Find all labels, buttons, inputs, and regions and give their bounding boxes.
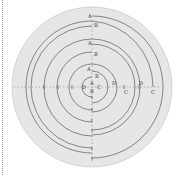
- spiral-diagram: A B D C A B D C A B A D C B: [0, 0, 180, 175]
- label-middle-c: C: [124, 89, 128, 95]
- label-outer-d: D: [139, 80, 143, 86]
- label-outer-a: A: [87, 13, 92, 19]
- label-center-d: D: [82, 84, 86, 90]
- label-outer-b: B: [94, 22, 98, 28]
- label-center-b: B: [90, 88, 94, 94]
- label-middle-b: B: [94, 51, 98, 57]
- label-outer-c: C: [151, 89, 155, 95]
- label-middle-d: D: [112, 80, 116, 86]
- label-center-a: A: [89, 80, 94, 86]
- label-inner-b: B: [95, 73, 99, 79]
- label-middle-a: A: [87, 40, 92, 46]
- label-center-c: C: [97, 84, 101, 90]
- label-inner-a: A: [86, 66, 91, 72]
